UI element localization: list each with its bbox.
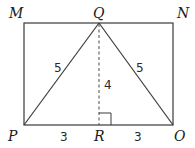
label-r: R xyxy=(93,128,105,144)
geometry-diagram: M Q N P R O 5 5 4 3 3 xyxy=(0,0,195,148)
label-p: P xyxy=(7,128,18,144)
length-pq: 5 xyxy=(54,61,62,75)
label-o: O xyxy=(174,128,186,144)
length-qr: 4 xyxy=(104,78,112,92)
right-angle-marker xyxy=(99,113,111,125)
length-ro: 3 xyxy=(134,130,142,144)
length-pr: 3 xyxy=(60,130,68,144)
label-q: Q xyxy=(93,5,105,21)
length-qo: 5 xyxy=(136,61,144,75)
label-n: N xyxy=(176,5,190,21)
label-m: M xyxy=(8,5,24,21)
